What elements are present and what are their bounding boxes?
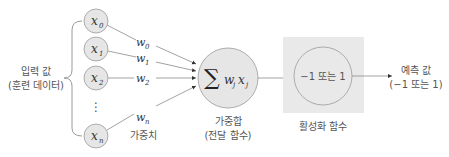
input-node-x2: x 2 [84, 66, 108, 90]
svg-text:2: 2 [98, 79, 104, 87]
input-brace [64, 21, 82, 136]
input-connections [107, 25, 196, 130]
weight-w0: w 0 [136, 36, 150, 51]
input-node-xn: x n [84, 124, 108, 148]
sum-node: ∑ w j x j [198, 48, 258, 108]
svg-text:x: x [91, 14, 98, 28]
activation-node: −1 또는 1 [294, 47, 352, 105]
svg-text:2: 2 [144, 79, 150, 87]
sum-label-line2: (전달 함수) [205, 130, 252, 141]
input-label-line1: 입력 값 [21, 65, 51, 77]
output-label-line2: (−1 또는 1) [389, 79, 442, 90]
svg-text:x: x [91, 71, 98, 85]
svg-text:1: 1 [99, 50, 103, 58]
input-ellipsis: ⋮ [90, 100, 102, 114]
sigma-symbol: ∑ [204, 65, 220, 90]
input-node-x0: x 0 [84, 9, 108, 33]
svg-text:1: 1 [145, 59, 149, 67]
sum-label-line1: 가중합 [215, 116, 242, 127]
weights-label: 가중치 [130, 130, 157, 141]
weight-w2: w 2 [136, 72, 150, 87]
svg-text:x: x [91, 129, 98, 143]
weight-w1: w 1 [136, 52, 149, 67]
activation-label: 활성화 함수 [299, 120, 347, 132]
svg-text:n: n [145, 118, 150, 126]
svg-text:0: 0 [99, 22, 104, 30]
weight-wn: w n [136, 111, 150, 126]
svg-text:x: x [91, 42, 98, 56]
svg-text:n: n [99, 137, 104, 145]
output-label-line1: 예측 값 [401, 65, 431, 76]
svg-text:0: 0 [145, 43, 150, 51]
input-node-x1: x 1 [84, 37, 108, 61]
input-label-line2: (훈련 데이터) [8, 79, 64, 91]
perceptron-diagram: 입력 값 (훈련 데이터) x 0 x 1 x 2 ⋮ x n w 0 [0, 0, 449, 157]
svg-text:−1 또는 1: −1 또는 1 [300, 71, 345, 82]
svg-text:x: x [238, 73, 245, 87]
